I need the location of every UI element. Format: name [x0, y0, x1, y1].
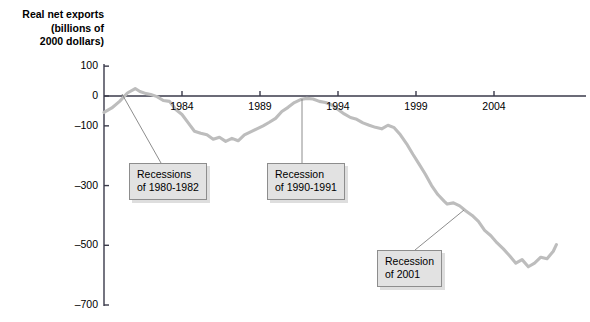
y-tick-label: 100: [52, 59, 98, 71]
annotation-callout: Recessionof 1990-1991: [267, 163, 345, 200]
x-tick-label: 2004: [472, 100, 516, 112]
y-tick-label: –700: [52, 298, 98, 310]
annotation-line-2: of 1980-1982: [137, 181, 199, 194]
x-tick-label: 1984: [160, 100, 204, 112]
chart-figure: Real net exports(billions of2000 dollars…: [0, 0, 590, 322]
annotation-callout: Recessionsof 1980-1982: [129, 163, 207, 200]
annotation-line-2: of 1990-1991: [275, 181, 337, 194]
annotation-leader-line: [415, 210, 464, 250]
x-tick-label: 1989: [238, 100, 282, 112]
y-tick-label: 0: [52, 89, 98, 101]
annotation-line-1: Recession: [275, 168, 337, 181]
x-tick-label: 1999: [394, 100, 438, 112]
annotation-callout: Recessionof 2001: [377, 250, 442, 287]
y-tick-label: –500: [52, 238, 98, 250]
annotation-leader-line: [122, 94, 161, 163]
annotation-line-1: Recessions: [137, 168, 199, 181]
annotation-line-1: Recession: [385, 255, 434, 268]
y-tick-label: –100: [52, 119, 98, 131]
y-tick-label: –300: [52, 179, 98, 191]
annotation-line-2: of 2001: [385, 268, 434, 281]
plot-area: [0, 0, 590, 322]
x-tick-label: 1994: [316, 100, 360, 112]
